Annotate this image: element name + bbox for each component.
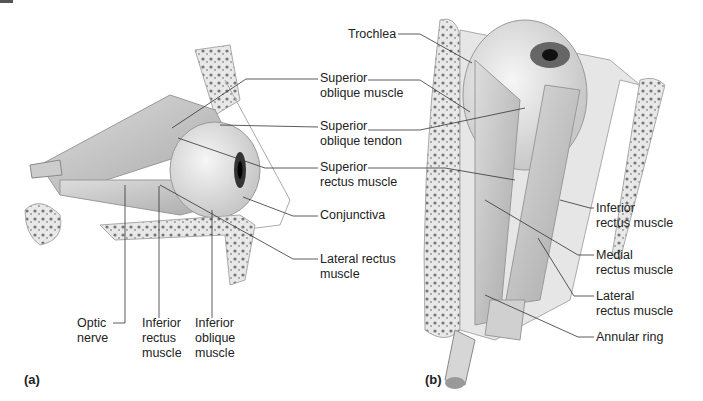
label-superior-rectus-muscle: Superiorrectus muscle	[320, 160, 397, 190]
label-annular-ring: Annular ring	[596, 330, 663, 345]
label-lateral-rectus-muscle-a: Lateral rectusmuscle	[320, 252, 396, 282]
label-optic-nerve: Opticnerve	[77, 316, 108, 346]
label-conjunctiva: Conjunctiva	[320, 208, 385, 223]
label-superior-oblique-tendon: Superioroblique tendon	[320, 119, 402, 149]
label-medial-rectus-muscle: Medialrectus muscle	[596, 248, 673, 278]
label-inferior-rectus-muscle-b: Inferiorrectus muscle	[596, 201, 673, 231]
label-trochlea: Trochlea	[348, 27, 396, 42]
label-inferior-rectus-muscle-a: Inferiorrectusmuscle	[142, 316, 182, 361]
label-superior-oblique-muscle: Superioroblique muscle	[320, 71, 403, 101]
panel-a-art	[25, 45, 290, 285]
label-lateral-rectus-muscle-b: Lateralrectus muscle	[596, 289, 673, 319]
label-inferior-oblique-muscle: Inferiorobliquemuscle	[195, 316, 235, 361]
panel-b-label: (b)	[425, 372, 442, 387]
panel-a-label: (a)	[24, 372, 40, 387]
